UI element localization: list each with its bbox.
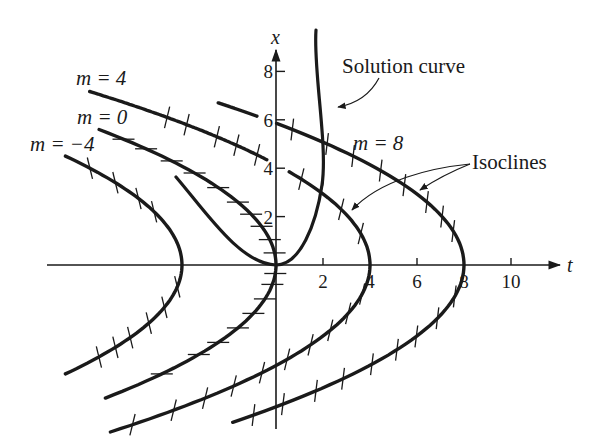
isocline-label-m-0: m = 0 [77,105,128,129]
t-axis-ticks: 246810 [318,258,520,292]
t-axis-tick-label: 10 [502,271,521,292]
x-axis-tick-label: 2 [264,207,274,228]
isocline-label-m-neg4: m = −4 [30,132,95,156]
x-axis-tick-label: 4 [264,158,274,179]
solution-curve-label: Solution curve [342,54,465,78]
solution-curve [176,30,323,265]
isocline-label-m-4: m = 4 [76,66,127,90]
solution-curve-pointer-arrow [338,78,379,107]
x-axis-tick-label: 6 [264,110,274,131]
isocline-diagram: 246810 2468 t x m = 4 m = 0 m = −4 m = 8… [0,0,603,446]
t-axis-tick-label: 6 [412,271,422,292]
isoclines-label: Isoclines [472,150,547,174]
isocline-curve [99,130,276,399]
isocline-m-0 [99,130,286,399]
isocline-curve [218,103,257,116]
x-axis-tick-label: 8 [264,61,274,82]
isocline-label-m-8: m = 8 [353,131,404,155]
x-axis-ticks: 2468 [264,61,286,227]
isocline-curve [110,172,370,432]
labels: m = 4 m = 0 m = −4 m = 8 Solution curve … [30,54,547,174]
isocline-pointer-arrow [352,164,470,210]
t-axis-tick-label: 2 [318,271,328,292]
isoclines-pointer-arrows [352,164,470,210]
x-axis-label: x [270,26,280,48]
t-axis-label: t [567,254,573,276]
